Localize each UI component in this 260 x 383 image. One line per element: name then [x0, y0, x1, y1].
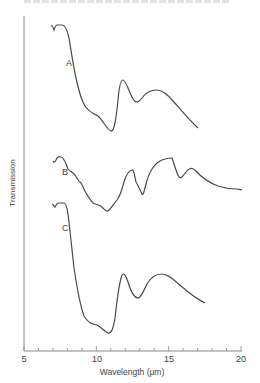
x-tick-label-10: 10: [92, 354, 102, 364]
y-axis-title: Transmission: [8, 159, 17, 206]
x-axis-title: Wavelength (μm): [100, 367, 165, 377]
curve-label-c: C: [62, 223, 69, 233]
x-tick-label-15: 15: [164, 354, 174, 364]
curve-b: [53, 157, 242, 212]
x-tick-label-20: 20: [236, 354, 246, 364]
spectra-chart: 5 10 15 20 Wavelength (μm) Transmission …: [0, 0, 260, 383]
curve-label-a: A: [66, 58, 72, 68]
curve-c: [52, 203, 205, 333]
x-axis-ticks: [24, 346, 241, 351]
curve-a: [51, 25, 198, 131]
curve-label-b: B: [62, 167, 68, 177]
x-tick-label-5: 5: [21, 354, 26, 364]
